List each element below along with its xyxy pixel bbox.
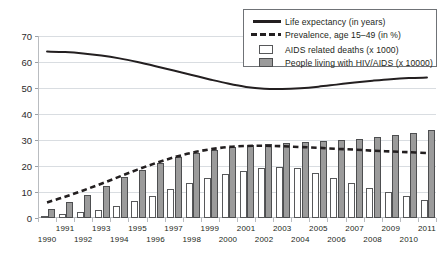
x-axis-tick-label: 2002 [255, 235, 274, 244]
x-axis-tick-mark [327, 218, 328, 222]
legend-item-prevalence: Prevalence, age 15–49 (in %) [251, 28, 430, 41]
x-axis-tick-mark [56, 218, 57, 222]
x-axis-tick-mark [346, 218, 347, 222]
x-axis-tick-label: 1992 [74, 235, 93, 244]
x-axis-tick-label: 2001 [237, 224, 256, 233]
x-axis-tick-label: 2007 [345, 224, 364, 233]
x-axis-tick-mark [110, 218, 111, 222]
x-axis-tick-label: 1994 [110, 235, 129, 244]
x-axis-tick-mark [255, 218, 256, 222]
x-axis-tick-mark [436, 218, 437, 222]
x-axis-tick-mark [74, 218, 75, 222]
x-axis-tick-mark [291, 218, 292, 222]
x-axis-tick-label: 1999 [201, 224, 220, 233]
x-axis-tick-label: 1995 [128, 224, 147, 233]
x-axis-tick-mark [128, 218, 129, 222]
x-axis-tick-label: 2011 [418, 224, 436, 233]
x-axis-tick-label: 1990 [38, 235, 57, 244]
x-axis-tick-mark [309, 218, 310, 222]
x-axis-tick-label: 2000 [219, 235, 238, 244]
white-swatch-icon [251, 45, 285, 54]
x-axis-tick-mark [273, 218, 274, 222]
chart-container: 010203040506070 Life expectancy (in year… [0, 0, 441, 257]
x-axis-tick-label: 2003 [273, 224, 292, 233]
x-axis-tick-mark [201, 218, 202, 222]
line-prevalence [47, 146, 427, 203]
x-axis-tick-mark [92, 218, 93, 222]
gray-swatch-icon [251, 58, 285, 67]
x-axis-tick-mark [219, 218, 220, 222]
chart-legend: Life expectancy (in years) Prevalence, a… [243, 9, 437, 67]
x-axis-tick-mark [418, 218, 419, 222]
x-axis-tick-mark [364, 218, 365, 222]
x-axis-tick-mark [147, 218, 148, 222]
x-axis-tick-label: 2008 [363, 235, 382, 244]
x-axis-tick-mark [382, 218, 383, 222]
x-axis-tick-label: 2010 [400, 235, 419, 244]
legend-label: AIDS related deaths (x 1000) [285, 45, 399, 55]
x-axis-tick-mark [183, 218, 184, 222]
x-axis-tick-mark [38, 218, 39, 222]
legend-item-people-living-with-hiv: People living with HIV/AIDS (x 10000) [251, 56, 430, 69]
dashed-line-icon [251, 33, 285, 36]
legend-label: Prevalence, age 15–49 (in %) [285, 30, 401, 40]
x-axis-tick-label: 2005 [309, 224, 328, 233]
legend-label: Life expectancy (in years) [285, 17, 386, 27]
legend-label: People living with HIV/AIDS (x 10000) [285, 58, 433, 68]
x-axis-tick-label: 2006 [327, 235, 346, 244]
x-axis-tick-mark [237, 218, 238, 222]
x-axis-tick-label: 1991 [56, 224, 75, 233]
legend-item-aids-deaths: AIDS related deaths (x 1000) [251, 43, 430, 56]
x-axis-tick-label: 1997 [164, 224, 183, 233]
x-axis-tick-label: 1993 [92, 224, 111, 233]
x-axis-tick-label: 1998 [182, 235, 201, 244]
x-axis-tick-mark [165, 218, 166, 222]
x-axis-tick-label: 2004 [291, 235, 310, 244]
x-axis-tick-label: 1996 [146, 235, 165, 244]
x-axis-tick-mark [400, 218, 401, 222]
solid-line-icon [251, 20, 285, 23]
x-axis-tick-label: 2009 [381, 224, 400, 233]
legend-item-life-expectancy: Life expectancy (in years) [251, 15, 430, 28]
